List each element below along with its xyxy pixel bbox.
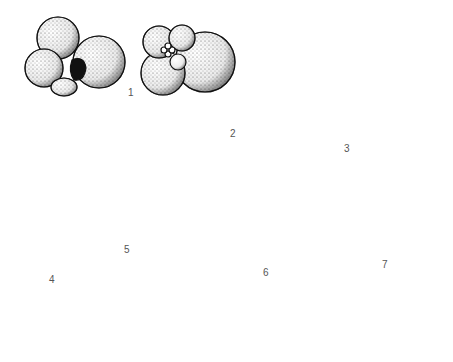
label-6: 6 (263, 267, 269, 278)
label-4: 4 (49, 274, 55, 285)
label-1: 1 (128, 87, 134, 98)
label-2: 2 (230, 128, 236, 139)
label-7: 7 (382, 259, 388, 270)
specimen-1-view-b (141, 25, 235, 95)
foraminifera-plate (0, 0, 453, 362)
label-3: 3 (344, 143, 350, 154)
specimen-1-view-a (25, 17, 125, 96)
label-5: 5 (124, 244, 130, 255)
